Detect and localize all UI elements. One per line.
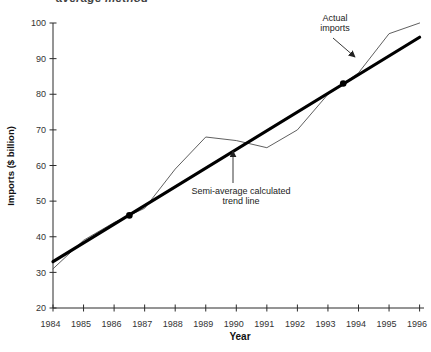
y-tick-label: 90 — [36, 54, 46, 64]
actual-imports-line — [53, 23, 420, 269]
annotation-arrows — [233, 38, 355, 183]
y-tick-label: 80 — [36, 89, 46, 99]
y-tick-label: 100 — [31, 18, 46, 28]
x-tick-label: 1988 — [163, 319, 183, 329]
x-tick-label: 1994 — [346, 319, 366, 329]
semi-average-trend-chart: average method 2030405060708090100198419… — [0, 0, 431, 352]
arrow-to-actual-line — [333, 38, 355, 57]
annotation-trend-line-line2: trend line — [163, 196, 319, 206]
x-tick-label: 1985 — [71, 319, 91, 329]
x-tick-label: 1995 — [377, 319, 397, 329]
y-tick-label: 70 — [36, 125, 46, 135]
annotation-trend-line: Semi-average calculated trend line — [163, 186, 319, 206]
x-tick-label: 1984 — [40, 319, 60, 329]
y-axis-title: Imports ($ billion) — [5, 126, 16, 206]
x-tick-label: 1991 — [254, 319, 274, 329]
y-tick-label: 60 — [36, 161, 46, 171]
x-tick-label: 1992 — [285, 319, 305, 329]
semi-average-point — [340, 80, 347, 87]
trend-line — [53, 37, 420, 261]
x-tick-label: 1986 — [102, 319, 122, 329]
annotation-trend-line-line1: Semi-average calculated — [163, 186, 319, 196]
x-axis-title: Year — [229, 331, 250, 342]
y-tick-label: 30 — [36, 268, 46, 278]
axes: 2030405060708090100198419851986198719881… — [31, 18, 427, 329]
annotation-actual-imports-line1: Actual — [295, 13, 375, 23]
x-tick-label: 1996 — [407, 319, 427, 329]
series-lines — [53, 23, 420, 269]
annotation-actual-imports: Actual imports — [295, 13, 375, 33]
semi-average-point — [126, 212, 133, 219]
x-tick-label: 1987 — [132, 319, 152, 329]
x-tick-label: 1993 — [315, 319, 335, 329]
y-tick-label: 40 — [36, 232, 46, 242]
chart-canvas: 2030405060708090100198419851986198719881… — [0, 0, 431, 352]
y-tick-label: 20 — [36, 303, 46, 313]
x-tick-label: 1989 — [193, 319, 213, 329]
y-tick-label: 50 — [36, 196, 46, 206]
x-tick-label: 1990 — [224, 319, 244, 329]
annotation-actual-imports-line2: imports — [295, 23, 375, 33]
